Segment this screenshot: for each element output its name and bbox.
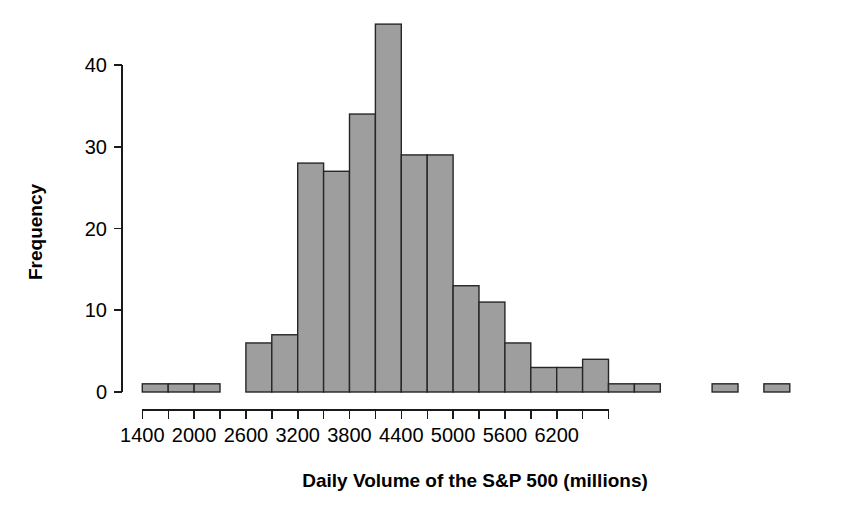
histogram-bar: 6800-7100: 1 bbox=[609, 384, 635, 392]
y-tick-label: 10 bbox=[85, 299, 107, 321]
x-tick-label: 2000 bbox=[172, 424, 217, 446]
y-tick-label: 40 bbox=[85, 54, 107, 76]
histogram-bar: undefined: 1 bbox=[764, 384, 790, 392]
x-tick-label: 5600 bbox=[483, 424, 528, 446]
x-tick-label: 3200 bbox=[275, 424, 320, 446]
histogram-bar: 2900-3200: 7 bbox=[272, 335, 298, 392]
x-tick-label: 5000 bbox=[431, 424, 476, 446]
x-tick-label: 4400 bbox=[379, 424, 424, 446]
y-tick-label: 30 bbox=[85, 136, 107, 158]
y-tick-label: 20 bbox=[85, 218, 107, 240]
histogram-bar: 6500-6800: 4 bbox=[583, 359, 609, 392]
histogram-bar: 5300-5600: 11 bbox=[479, 302, 505, 392]
bars-group: 1400-1700: 11700-2000: 12000-2300: 12600… bbox=[142, 24, 790, 392]
histogram-figure: 1400-1700: 11700-2000: 12000-2300: 12600… bbox=[0, 0, 860, 506]
y-tick-label: 0 bbox=[96, 381, 107, 403]
histogram-bar: 5000-5300: 13 bbox=[453, 286, 479, 392]
histogram-bar: undefined: 1 bbox=[712, 384, 738, 392]
histogram-bar: 1400-1700: 1 bbox=[142, 384, 168, 392]
y-axis bbox=[114, 65, 122, 392]
x-axis-title: Daily Volume of the S&P 500 (millions) bbox=[302, 470, 648, 491]
histogram-bar: 4400-4700: 29 bbox=[401, 155, 427, 392]
y-axis-title: Frequency bbox=[25, 184, 46, 281]
histogram-bar: 1700-2000: 1 bbox=[168, 384, 194, 392]
histogram-bar: 3200-3500: 28 bbox=[298, 163, 324, 392]
x-tick-label: 6200 bbox=[534, 424, 579, 446]
histogram-bar: 3500-3800: 27 bbox=[324, 171, 350, 392]
x-tick-label: 1400 bbox=[120, 424, 165, 446]
histogram-bar: 5600-5900: 6 bbox=[505, 343, 531, 392]
histogram-bar: 6200-6500: 3 bbox=[557, 367, 583, 392]
histogram-plot: 1400-1700: 11700-2000: 12000-2300: 12600… bbox=[0, 0, 860, 506]
x-tick-label: 3800 bbox=[327, 424, 372, 446]
x-tick-labels: 140020002600320038004400500056006200 bbox=[120, 424, 579, 446]
x-axis bbox=[142, 410, 608, 419]
y-tick-labels: 010203040 bbox=[85, 54, 107, 403]
histogram-bar: 4700-5000: 29 bbox=[427, 155, 453, 392]
histogram-bar: 3800-4100: 34 bbox=[350, 114, 376, 392]
histogram-bar: 5900-6200: 3 bbox=[531, 367, 557, 392]
histogram-bar: 2000-2300: 1 bbox=[194, 384, 220, 392]
x-tick-label: 2600 bbox=[224, 424, 269, 446]
histogram-bar: undefined: 1 bbox=[634, 384, 660, 392]
histogram-bar: 2600-2900: 6 bbox=[246, 343, 272, 392]
histogram-bar: 4100-4400: 45 bbox=[375, 24, 401, 392]
